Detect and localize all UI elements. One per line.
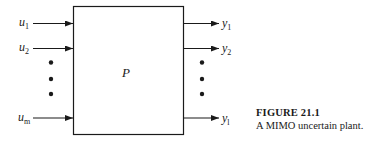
ellipsis-dot — [49, 60, 53, 64]
input-label-1: u1 — [19, 16, 29, 33]
block-label: P — [122, 65, 130, 81]
input-label-2: u2 — [19, 41, 29, 58]
ellipsis-dot — [49, 92, 53, 96]
figure-caption-text: A MIMO uncertain plant. — [256, 120, 363, 131]
output-label-2: y2 — [222, 42, 231, 59]
ellipsis-dot — [200, 92, 204, 96]
ellipsis-dot — [200, 60, 204, 64]
figure-caption-title: FIGURE 21.1 — [256, 107, 320, 118]
ellipsis-dot — [49, 77, 53, 81]
output-label-1: y1 — [222, 17, 231, 34]
ellipsis-dot — [200, 77, 204, 81]
input-label-m: um — [18, 111, 30, 128]
output-label-l: yl — [222, 112, 230, 129]
